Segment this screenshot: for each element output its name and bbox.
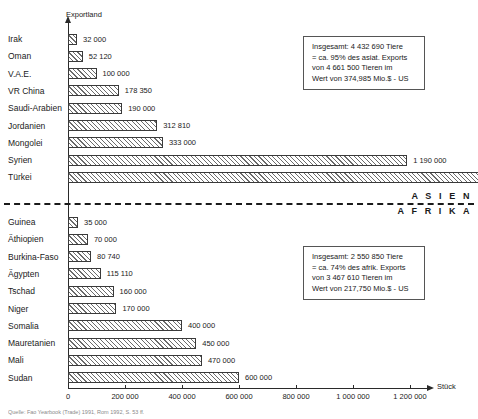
bar-row-label: Mauretanien (8, 338, 55, 348)
region-label-asien: A S I E N (411, 191, 472, 201)
annotation-line: Insgesamt: 2 550 850 Tiere (312, 252, 417, 263)
bar-row-label: Jordanien (8, 121, 45, 131)
bar-row: Niger170 000 (0, 301, 478, 318)
bar-value-label: 450 000 (202, 339, 229, 349)
annotation-line: Wert von 374,985 Mio.$ - US (312, 74, 417, 85)
bar-row: Guinea35 000 (0, 214, 478, 231)
bar-row-label: Burkina-Faso (8, 252, 59, 262)
bar (68, 251, 91, 262)
annotation-line: von 4 661 500 Tieren im (312, 63, 417, 74)
bar-row: Mauretanien450 000 (0, 335, 478, 352)
bar-row: Jordanien312 810 (0, 118, 478, 135)
bar-row-label: Irak (8, 34, 22, 44)
bar-value-label: 160 000 (120, 287, 147, 297)
annotation-line: von 3 467 610 Tieren im (312, 273, 417, 284)
bar (68, 85, 119, 96)
x-axis-tick-label: 800 000 (282, 392, 309, 401)
bar (68, 372, 239, 383)
bar-row-label: Sudan (8, 373, 33, 383)
bar (68, 172, 478, 183)
bar-row-label: Niger (8, 304, 28, 314)
bar-value-label: 400 000 (188, 321, 215, 331)
bar-value-label: 80 740 (97, 252, 120, 262)
bar-value-label: 190 000 (128, 104, 155, 114)
bar-row-label: V.A.E. (8, 69, 31, 79)
bar-value-label: 70 000 (94, 235, 117, 245)
bar-value-label: 170 000 (122, 304, 149, 314)
x-axis-tick-label: 1 000 000 (336, 392, 369, 401)
x-axis-tick-label: 600 000 (225, 392, 252, 401)
bar-value-label: 333 000 (169, 138, 196, 148)
export-bar-chart: Exportland Stück 0200 000400 000600 0008… (0, 0, 478, 419)
bar-row-label: Mongolei (8, 138, 43, 148)
bar-row-label: Türkei (8, 172, 32, 182)
bar (68, 234, 88, 245)
bar-row: Saudi-Arabien190 000 (0, 100, 478, 117)
bar (68, 338, 196, 349)
x-axis-tick-label: 200 000 (111, 392, 138, 401)
bar-value-label: 1 190 000 (413, 156, 446, 166)
bar-value-label: 32 000 (83, 35, 106, 45)
bar (68, 286, 114, 297)
x-axis-line (68, 388, 427, 389)
bar-value-label: 100 000 (103, 69, 130, 79)
bar-value-label: 52 120 (89, 52, 112, 62)
bar-row-label: Syrien (8, 155, 32, 165)
bar (68, 51, 83, 62)
bar (68, 217, 78, 228)
x-axis-tick-label: 0 (66, 392, 70, 401)
region-label-afrika: A F R I K A (398, 206, 472, 216)
bar-row: Mali470 000 (0, 352, 478, 369)
bar-row-label: Mali (8, 355, 24, 365)
bar-row: Syrien1 190 000 (0, 152, 478, 169)
y-axis-title: Exportland (66, 10, 102, 19)
bar-value-label: 470 000 (208, 356, 235, 366)
bar (68, 320, 182, 331)
x-axis-tick-label: 400 000 (168, 392, 195, 401)
bar-value-label: 600 000 (245, 373, 272, 383)
bar-row-label: Oman (8, 51, 31, 61)
annotation-box-africa: Insgesamt: 2 550 850 Tiere = ca. 74% des… (303, 246, 425, 300)
bar-row: Sudan600 000 (0, 370, 478, 387)
bar-row-label: Ägypten (8, 269, 39, 279)
annotation-line: Insgesamt: 4 432 690 Tiere (312, 42, 417, 53)
bar (68, 268, 101, 279)
bar-row-label: Äthiopien (8, 234, 43, 244)
bar-row: Türkei2 044 410 (0, 169, 478, 186)
bar-value-label: 312 810 (163, 121, 190, 131)
bar-row-label: Saudi-Arabien (8, 103, 62, 113)
bar-row: Mongolei333 000 (0, 135, 478, 152)
source-note: Quelle: Fao Yearbook (Trade) 1991, Rom 1… (8, 409, 144, 419)
bar (68, 103, 122, 114)
bar-row-label: Guinea (8, 217, 35, 227)
bar (68, 34, 77, 45)
bar-value-label: 35 000 (84, 218, 107, 228)
bar-row-label: VR China (8, 86, 44, 96)
bar (68, 137, 163, 148)
bar (68, 68, 97, 79)
bar-row: Somalia400 000 (0, 318, 478, 335)
x-axis-tick-label: 1 200 000 (393, 392, 426, 401)
bar-row-label: Somalia (8, 321, 39, 331)
bar (68, 155, 407, 166)
annotation-line: = ca. 74% des afrik. Exports (312, 263, 417, 274)
bar-row-label: Tschad (8, 286, 35, 296)
bar (68, 120, 157, 131)
region-divider (4, 203, 474, 205)
annotation-line: Wert von 217,750 Mio.$ - US (312, 284, 417, 295)
bar-value-label: 115 110 (107, 269, 133, 279)
annotation-line: = ca. 95% des asiat. Exports (312, 53, 417, 64)
annotation-box-asia: Insgesamt: 4 432 690 Tiere = ca. 95% des… (303, 36, 425, 90)
bar (68, 303, 116, 314)
bar-value-label: 178 350 (125, 86, 152, 96)
bar (68, 355, 202, 366)
